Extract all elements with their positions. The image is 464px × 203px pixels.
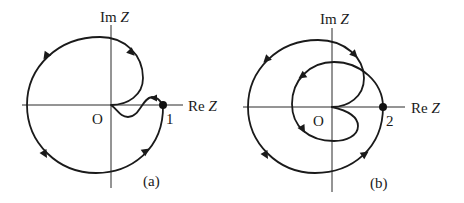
imag-axis-label-b: Im Z: [320, 11, 349, 27]
origin-label-a: O: [92, 111, 103, 127]
point-label-b: 2: [386, 113, 394, 129]
panel-b: Im Z Re Z O 2 (b): [243, 11, 440, 192]
real-axis-label-a: Re Z: [188, 98, 217, 114]
arrow-icon: [126, 47, 137, 58]
arrow-icon: [261, 54, 272, 65]
real-axis-label-b: Re Z: [411, 100, 440, 116]
panel-a: Im Z Re Z O 1 (a): [22, 9, 217, 190]
imag-axis-label-a: Im Z: [100, 9, 129, 25]
contour-b-inner: [292, 62, 383, 141]
origin-label-b: O: [313, 113, 324, 129]
caption-a: (a): [143, 173, 160, 190]
point-label-a: 1: [166, 111, 174, 127]
arrow-icon: [150, 95, 157, 102]
marked-point-a: [159, 101, 167, 109]
nyquist-figure: Im Z Re Z O 1 (a) Im Z Re Z O 2 (b): [0, 0, 464, 203]
caption-b: (b): [370, 175, 388, 192]
arrow-icon: [40, 51, 51, 62]
marked-point-b: [379, 103, 387, 111]
